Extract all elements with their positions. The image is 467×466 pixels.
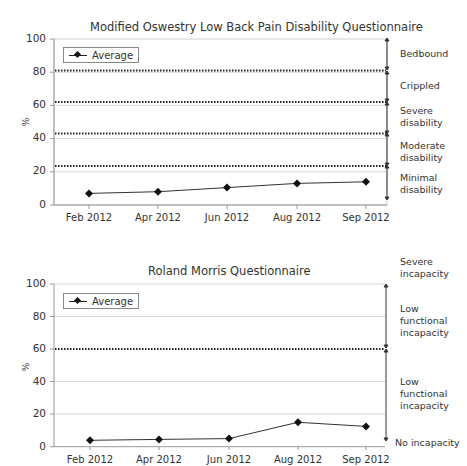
y-tick: 80 <box>22 310 46 322</box>
zone-label-low-functional-incapacity-upper: Low functional incapacity <box>400 303 449 339</box>
zone-label-severe-incapacity: Severe incapacity <box>400 256 449 280</box>
y-tick: 20 <box>22 407 46 419</box>
diamond-line-marker-icon <box>69 297 87 305</box>
x-tick: Apr 2012 <box>129 454 189 465</box>
y-axis-label: % <box>21 363 31 372</box>
average-series-markers <box>86 418 370 444</box>
x-tick: Jun 2012 <box>199 454 259 465</box>
plot-area <box>0 0 467 466</box>
legend-label: Average <box>92 296 133 307</box>
zone-label-low-functional-incapacity-lower: Low functional incapacity <box>400 376 449 412</box>
chart-legend: Average <box>63 293 139 309</box>
x-tick: Feb 2012 <box>60 454 120 465</box>
x-tick: Sep 2012 <box>336 454 396 465</box>
roland-morris-chart: Roland Morris Questionnaire <box>0 0 467 466</box>
x-tick: Aug 2012 <box>268 454 328 465</box>
y-tick: 40 <box>22 375 46 387</box>
zone-label-no-incapacity: No incapacity <box>395 437 460 449</box>
y-tick: 100 <box>22 277 46 289</box>
y-tick: 60 <box>22 342 46 354</box>
y-tick: 0 <box>22 440 46 452</box>
